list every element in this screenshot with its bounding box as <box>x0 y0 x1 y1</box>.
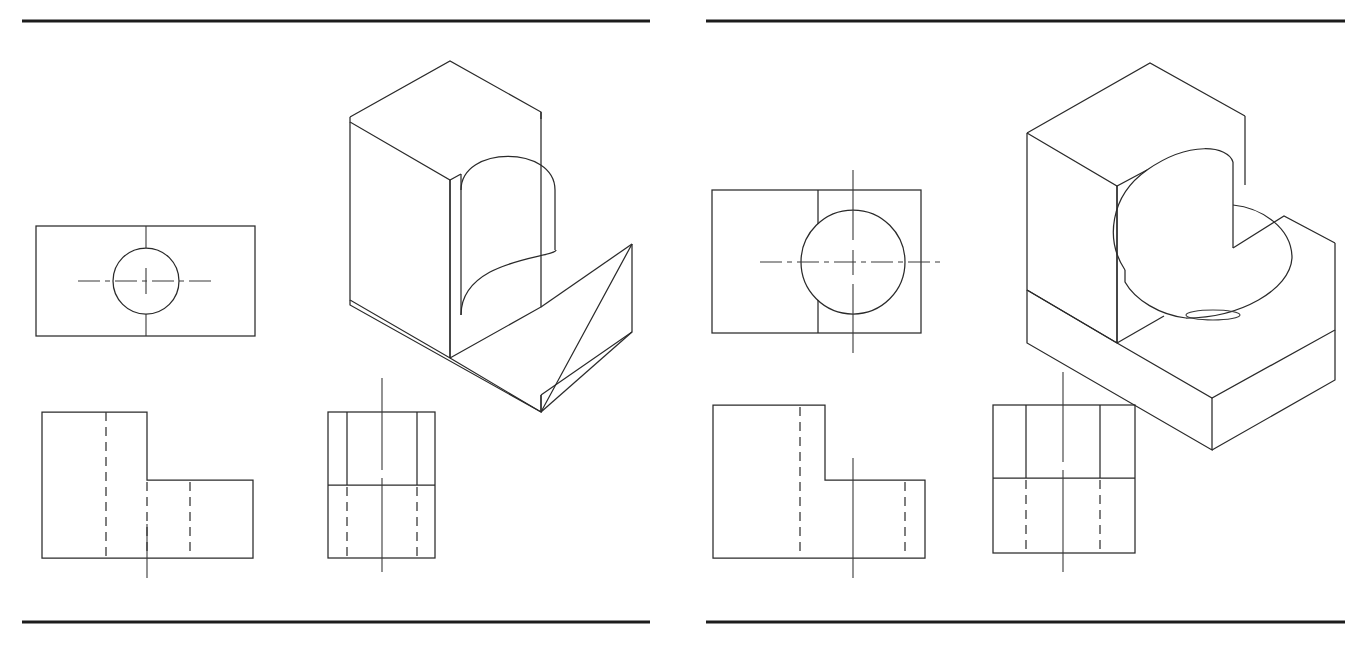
right-plate-area <box>706 30 1345 610</box>
drawing-sheet <box>0 0 1372 645</box>
right-plate <box>0 0 1372 645</box>
